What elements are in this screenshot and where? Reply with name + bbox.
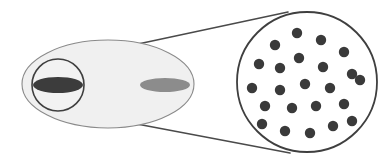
particle-dot bbox=[247, 83, 257, 93]
particle-dot bbox=[318, 62, 328, 72]
figure-canvas: Magnified inset diagram of an oval body … bbox=[0, 0, 390, 166]
particle-dot bbox=[257, 119, 267, 129]
particle-dot bbox=[275, 85, 285, 95]
particle-dot bbox=[311, 101, 321, 111]
magnification-diagram: Magnified inset diagram of an oval body … bbox=[0, 0, 390, 166]
particle-dot bbox=[325, 83, 335, 93]
particle-dot bbox=[339, 47, 349, 57]
particle-dot bbox=[287, 103, 297, 113]
particle-dot bbox=[305, 128, 315, 138]
particle-dot bbox=[260, 101, 270, 111]
particle-dot bbox=[316, 35, 326, 45]
dark-lens-ellipse bbox=[33, 77, 83, 93]
particle-dot bbox=[254, 59, 264, 69]
particle-dot bbox=[347, 116, 357, 126]
particle-dot bbox=[292, 28, 302, 38]
particle-dot bbox=[328, 121, 338, 131]
particle-dot bbox=[300, 79, 310, 89]
particle-dot bbox=[280, 126, 290, 136]
gray-lens-ellipse bbox=[140, 78, 190, 92]
particle-dot bbox=[275, 63, 285, 73]
particle-dot bbox=[339, 99, 349, 109]
particle-dot bbox=[270, 40, 280, 50]
particle-dot bbox=[294, 53, 304, 63]
particle-dot bbox=[355, 75, 365, 85]
